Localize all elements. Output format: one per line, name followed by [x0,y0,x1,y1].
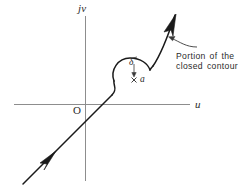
contour-group [23,14,176,184]
contour-arrow-lower-icon [40,151,56,170]
annotation-leader-group [169,36,198,47]
contour-note-leader-line [171,38,197,47]
contour-lower-segment [23,95,112,184]
pole-label-a: a [140,74,145,85]
contour-diagram-svg [0,0,250,192]
contour-note-line2: closed contour [176,61,238,71]
imaginary-axis-label: jv [78,2,86,15]
axes-group [14,16,190,181]
figure-container: jv u O δ a Portion of the closed contour [0,0,250,192]
delta-radius-label: δ [129,57,134,68]
delta-radius-arrow-icon [132,73,136,78]
contour-note-leader-arrow-icon [169,36,176,40]
origin-label: O [73,104,81,117]
contour-note: Portion of the closed contour [176,51,238,71]
real-axis-label: u [195,98,201,111]
contour-entry-bend [112,81,115,95]
contour-note-line1: Portion of the [176,51,238,61]
contour-arrow-upper-icon [164,14,176,36]
